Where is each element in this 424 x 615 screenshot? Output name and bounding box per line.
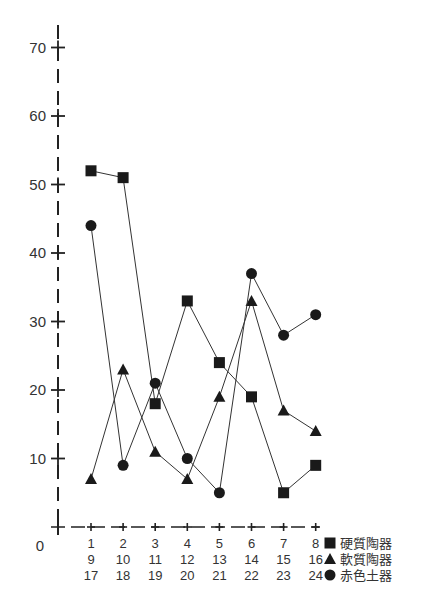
series-circle <box>86 220 322 498</box>
y-tick-label: 60 <box>29 107 46 124</box>
triangle-legend-icon <box>324 553 336 564</box>
series-layer <box>85 165 322 498</box>
x-tick-label: 5 <box>216 536 223 551</box>
data-point-square <box>214 357 225 368</box>
x-tick-label: 18 <box>116 568 130 583</box>
y-axis: 102030405060700 <box>29 25 65 554</box>
y-tick-label: 10 <box>29 450 46 467</box>
data-point-triangle <box>278 405 290 416</box>
x-tick-label: 14 <box>244 552 258 567</box>
x-tick-label: 6 <box>248 536 255 551</box>
x-tick-label: 15 <box>276 552 290 567</box>
x-tick-label: 1 <box>87 536 94 551</box>
x-tick-label: 10 <box>116 552 130 567</box>
data-point-circle <box>182 453 193 464</box>
y-tick-label: 50 <box>29 176 46 193</box>
data-point-square <box>278 487 289 498</box>
x-tick-label: 20 <box>180 568 194 583</box>
data-point-circle <box>150 378 161 389</box>
data-point-square <box>118 172 129 183</box>
square-legend-icon <box>325 538 336 549</box>
x-tick-label: 8 <box>312 536 319 551</box>
data-point-circle <box>86 220 97 231</box>
x-tick-label: 17 <box>84 568 98 583</box>
x-tick-label: 4 <box>184 536 191 551</box>
x-tick-label: 24 <box>308 568 322 583</box>
x-tick-label: 19 <box>148 568 162 583</box>
data-point-triangle <box>85 473 97 484</box>
data-point-circle <box>246 268 257 279</box>
data-point-triangle <box>117 363 129 374</box>
data-point-square <box>182 295 193 306</box>
series-line <box>91 301 316 479</box>
y-tick-label: 40 <box>29 244 46 261</box>
data-point-square <box>246 391 257 402</box>
x-tick-label: 3 <box>152 536 159 551</box>
data-point-circle <box>118 460 129 471</box>
data-point-circle <box>278 330 289 341</box>
data-point-circle <box>214 487 225 498</box>
series-line <box>91 226 316 493</box>
y-tick-label: 20 <box>29 381 46 398</box>
legend-label: 赤色土器 <box>340 568 392 583</box>
data-point-circle <box>310 309 321 320</box>
data-point-triangle <box>181 473 193 484</box>
y-tick-label: 30 <box>29 313 46 330</box>
x-tick-label: 13 <box>212 552 226 567</box>
x-tick-label: 12 <box>180 552 194 567</box>
x-tick-label: 23 <box>276 568 290 583</box>
y-tick-label-zero: 0 <box>36 537 44 554</box>
x-tick-label: 16 <box>308 552 322 567</box>
data-point-triangle <box>149 446 161 457</box>
legend-label: 硬質陶器 <box>340 536 392 551</box>
x-tick-label: 9 <box>87 552 94 567</box>
x-tick-label: 11 <box>148 552 162 567</box>
legend: 硬質陶器軟質陶器赤色土器 <box>324 536 392 583</box>
data-point-triangle <box>310 425 322 436</box>
x-tick-label: 21 <box>212 568 226 583</box>
legend-item: 赤色土器 <box>325 568 393 583</box>
x-tick-label: 7 <box>280 536 287 551</box>
x-tick-label: 2 <box>119 536 126 551</box>
circle-legend-icon <box>325 570 336 581</box>
legend-item: 硬質陶器 <box>325 536 393 551</box>
legend-label: 軟質陶器 <box>340 552 392 567</box>
data-point-square <box>150 398 161 409</box>
y-tick-label: 70 <box>29 39 46 56</box>
series-triangle <box>85 295 322 484</box>
legend-item: 軟質陶器 <box>324 552 392 567</box>
x-tick-label: 22 <box>244 568 258 583</box>
line-chart: 102030405060700 191721018311194122051321… <box>0 0 424 615</box>
data-point-square <box>310 460 321 471</box>
x-axis: 191721018311194122051321614227152381624 <box>51 519 323 583</box>
data-point-square <box>86 165 97 176</box>
data-point-triangle <box>213 391 225 402</box>
